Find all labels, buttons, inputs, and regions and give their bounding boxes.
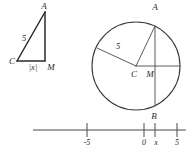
- triangle-label-A: A: [40, 1, 47, 11]
- geometry-figure: A C M 5 |x| A 5 C M B -5: [0, 0, 194, 146]
- circle-label-radius-length: 5: [116, 41, 120, 51]
- circle-label-C: C: [131, 69, 138, 79]
- circle-label-B: B: [151, 111, 157, 121]
- number-line-tick-label-1: 0: [142, 138, 146, 146]
- circle-label-M: M: [145, 69, 154, 79]
- triangle-label-base-length: |x|: [29, 62, 37, 72]
- triangle-label-hypotenuse-length: 5: [22, 33, 26, 43]
- triangle-label-M: M: [46, 62, 55, 72]
- circle-group: [92, 22, 180, 110]
- number-line-group: [33, 123, 186, 137]
- figure-container: A C M 5 |x| A 5 C M B -5: [0, 0, 194, 146]
- number-line-tick-label-0: -5: [84, 138, 91, 146]
- number-line-tick-label-2: x: [153, 138, 158, 146]
- number-line-tick-label-3: 5: [175, 138, 179, 146]
- circle-label-A: A: [151, 2, 158, 12]
- circle-radius-CA: [136, 26, 155, 66]
- triangle-label-C: C: [9, 56, 16, 66]
